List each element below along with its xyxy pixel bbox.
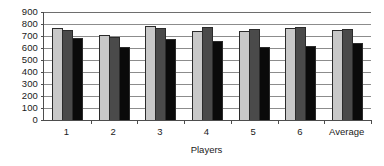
x-tick-label: 4 [183, 126, 230, 137]
y-tick-label: 0 [0, 115, 38, 125]
y-tick-label: 500 [0, 55, 38, 65]
y-tick-label: 200 [0, 91, 38, 101]
y-tick-mark [41, 24, 44, 25]
x-tick-label: 3 [136, 126, 183, 137]
x-tick-mark [278, 120, 279, 124]
bar-chart: 9008007006005004003002001000 123456Avera… [0, 0, 384, 166]
bar [352, 43, 363, 120]
bar [165, 39, 176, 120]
y-tick-mark [41, 48, 44, 49]
bar-group [184, 12, 231, 120]
y-tick-label: 700 [0, 31, 38, 41]
bar-group [137, 12, 184, 120]
bar [119, 47, 130, 120]
y-tick-mark [41, 96, 44, 97]
y-axis: 9008007006005004003002001000 [0, 0, 38, 166]
y-tick-mark [41, 60, 44, 61]
x-tick-label: 1 [43, 126, 90, 137]
x-axis-title: Players [43, 144, 370, 155]
x-tick-mark [91, 120, 92, 124]
x-tick-mark [184, 120, 185, 124]
bars-layer [44, 12, 371, 120]
x-tick-label: 6 [277, 126, 324, 137]
y-tick-mark [41, 108, 44, 109]
x-axis: 123456Average [43, 126, 370, 140]
y-tick-label: 600 [0, 43, 38, 53]
plot-area [43, 12, 371, 121]
x-tick-label: Average [323, 126, 370, 137]
bar [305, 46, 316, 120]
x-tick-mark [324, 120, 325, 124]
y-tick-label: 900 [0, 7, 38, 17]
x-tick-mark [231, 120, 232, 124]
x-tick-label: 2 [90, 126, 137, 137]
y-tick-mark [41, 72, 44, 73]
y-tick-label: 800 [0, 19, 38, 29]
y-tick-label: 300 [0, 79, 38, 89]
x-tick-label: 5 [230, 126, 277, 137]
y-tick-mark [41, 120, 44, 121]
x-tick-mark [371, 120, 372, 124]
bar-group [44, 12, 91, 120]
x-tick-mark [137, 120, 138, 124]
bar-group [231, 12, 278, 120]
bar [259, 47, 270, 120]
y-tick-mark [41, 84, 44, 85]
bar-group [91, 12, 138, 120]
bar-group [278, 12, 325, 120]
y-tick-mark [41, 36, 44, 37]
bar [212, 41, 223, 120]
bar-group [324, 12, 371, 120]
y-tick-mark [41, 12, 44, 13]
bar [72, 38, 83, 120]
y-tick-label: 100 [0, 103, 38, 113]
y-tick-label: 400 [0, 67, 38, 77]
